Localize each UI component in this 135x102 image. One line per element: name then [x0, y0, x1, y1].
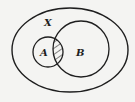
set-b-label: B	[75, 47, 84, 58]
universe-label: X	[43, 17, 53, 28]
venn-diagram: X A B	[0, 0, 135, 102]
set-a-label: A	[39, 47, 48, 58]
universe-ellipse	[12, 8, 128, 92]
